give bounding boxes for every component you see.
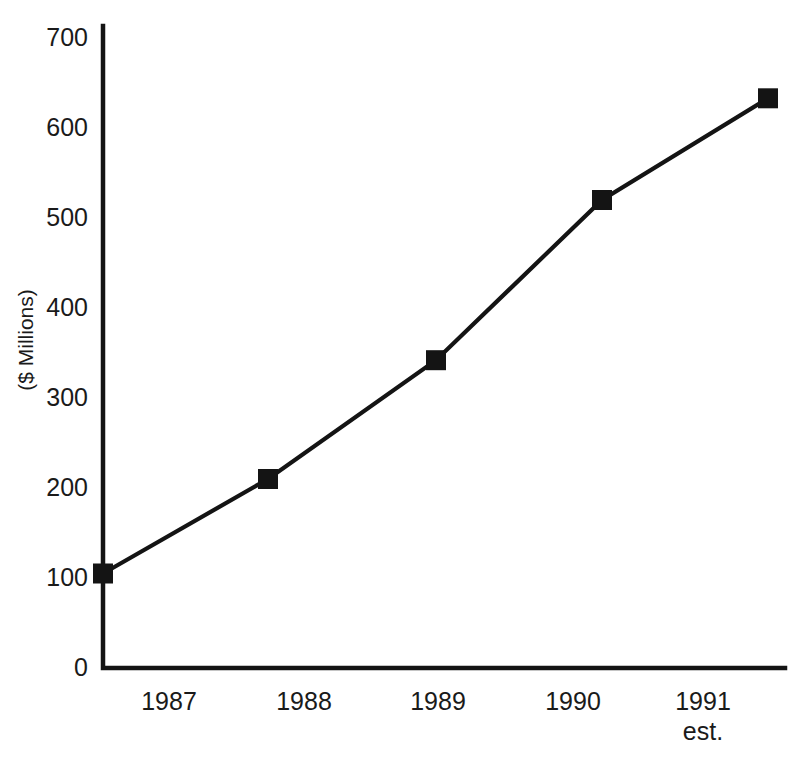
x-tick-sublabel-1991: est. xyxy=(683,717,723,745)
y-axis-title: ($ Millions) xyxy=(14,289,37,391)
data-point-marker-1988 xyxy=(258,469,278,489)
data-point-marker-1991-est. xyxy=(758,88,778,108)
x-tick-label-1987: 1987 xyxy=(141,687,197,715)
chart-background xyxy=(0,0,800,757)
data-point-marker-1987 xyxy=(93,564,113,584)
y-tick-label-200: 200 xyxy=(46,473,88,501)
data-point-marker-1990 xyxy=(592,190,612,210)
line-chart: 0100200300400500600700 ($ Millions) 1987… xyxy=(0,0,800,757)
x-tick-label-1988: 1988 xyxy=(276,687,332,715)
x-tick-label-1989: 1989 xyxy=(410,687,466,715)
x-tick-label-1990: 1990 xyxy=(545,687,601,715)
y-tick-label-600: 600 xyxy=(46,113,88,141)
y-tick-label-300: 300 xyxy=(46,383,88,411)
y-tick-label-100: 100 xyxy=(46,563,88,591)
y-tick-label-0: 0 xyxy=(74,653,88,681)
y-tick-label-700: 700 xyxy=(46,23,88,51)
y-tick-label-500: 500 xyxy=(46,203,88,231)
chart-container: 0100200300400500600700 ($ Millions) 1987… xyxy=(0,0,800,757)
data-point-marker-1989 xyxy=(426,350,446,370)
y-tick-label-400: 400 xyxy=(46,293,88,321)
x-tick-label-1991: 1991 xyxy=(675,687,731,715)
